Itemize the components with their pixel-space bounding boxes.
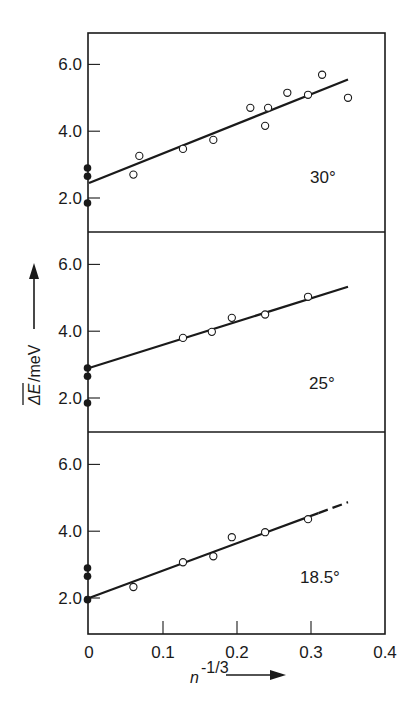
open-data-point [179, 145, 186, 152]
x-axis-label-main: n [190, 669, 199, 686]
x-axis-arrow-icon [270, 670, 286, 680]
filled-data-point [84, 164, 92, 172]
open-data-point [130, 583, 137, 590]
filled-data-point [84, 572, 92, 580]
open-data-point [210, 136, 217, 143]
x-tick-label: 0.1 [151, 643, 175, 662]
open-data-point [262, 122, 269, 129]
open-data-point [228, 534, 235, 541]
open-data-point [228, 314, 235, 321]
open-data-point [130, 171, 137, 178]
panels: 2.04.06.030°2.04.06.025°2.04.06.018.5° [58, 55, 351, 608]
x-tick-label: 0.3 [299, 643, 323, 662]
open-data-point [210, 553, 217, 560]
fit-line [89, 513, 318, 598]
y-tick-label: 4.0 [58, 122, 82, 141]
open-data-point [304, 91, 311, 98]
open-data-point [179, 334, 186, 341]
y-axis-label-unit: /meV [26, 344, 43, 382]
open-data-point [319, 71, 326, 78]
filled-data-point [84, 399, 92, 407]
y-axis-label: ΔE /meV [23, 263, 43, 406]
y-axis-label-delta-e: ΔE [26, 383, 43, 406]
filled-data-point [84, 199, 92, 207]
filled-data-point [84, 596, 92, 604]
y-tick-label: 4.0 [58, 522, 82, 541]
panel-angle-label: 30° [310, 168, 336, 187]
panel-3: 2.04.06.018.5° [58, 455, 348, 608]
x-axis-label: n -1/3 [190, 659, 286, 686]
y-tick-label: 6.0 [58, 55, 82, 74]
x-axis-label-superscript: -1/3 [201, 659, 229, 676]
y-tick-label: 6.0 [58, 455, 82, 474]
open-data-point [262, 311, 269, 318]
panel-1: 2.04.06.030° [58, 55, 351, 208]
panel-angle-label: 25° [309, 374, 335, 393]
chart: 2.04.06.030°2.04.06.025°2.04.06.018.5° 0… [0, 0, 414, 718]
open-data-point [247, 104, 254, 111]
y-tick-label: 2.0 [58, 389, 82, 408]
open-data-point [262, 529, 269, 536]
filled-data-point [84, 172, 92, 180]
filled-data-point [84, 372, 92, 380]
y-tick-label: 6.0 [58, 255, 82, 274]
panel-2: 2.04.06.025° [58, 255, 348, 408]
open-data-point [208, 328, 215, 335]
open-data-point [136, 152, 143, 159]
y-tick-label: 2.0 [58, 189, 82, 208]
open-data-point [264, 104, 271, 111]
y-axis-arrow-icon [29, 263, 39, 279]
y-tick-label: 2.0 [58, 589, 82, 608]
open-data-point [284, 89, 291, 96]
filled-data-point [84, 364, 92, 372]
x-tick-label: 0.2 [225, 643, 249, 662]
open-data-point [304, 516, 311, 523]
open-data-point [344, 94, 351, 101]
x-tick-label: 0.4 [373, 643, 397, 662]
panel-angle-label: 18.5° [300, 568, 340, 587]
open-data-point [179, 559, 186, 566]
y-tick-label: 4.0 [58, 322, 82, 341]
open-data-point [304, 293, 311, 300]
filled-data-point [84, 564, 92, 572]
fit-line-dashed-tail [318, 502, 348, 513]
x-axis: 00.10.20.30.4 [84, 621, 397, 662]
x-tick-label: 0 [84, 643, 93, 662]
